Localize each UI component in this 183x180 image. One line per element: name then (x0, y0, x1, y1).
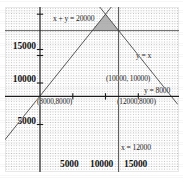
label-vertex-top: (10000, 10000) (106, 75, 150, 82)
y-axis-tick-label-5000: 5000 (14, 117, 36, 127)
label-identity-line: y = x (136, 52, 151, 60)
x-axis-tick-label-5000: 5000 (60, 160, 79, 170)
label-x-constraint: x = 12000 (121, 144, 151, 152)
label-vertex-right: (12000,8000) (117, 98, 156, 105)
y-axis-tick-label-15000: 15000 (8, 42, 36, 52)
y-axis-tick-label-10000: 10000 (8, 75, 36, 85)
label-y-constraint: y = 8000 (144, 87, 170, 95)
figure-screenshot: 15000 10000 5000 5000 10000 15000 x + y … (0, 0, 183, 180)
x-axis-tick-label-10000: 10000 (90, 160, 113, 170)
x-axis-tick-label-15000: 15000 (124, 160, 147, 170)
label-vertex-left: (8000,8000) (37, 98, 72, 105)
label-sum-constraint: x + y = 20000 (53, 15, 94, 23)
shaded-feasible-region (92, 14, 118, 30)
